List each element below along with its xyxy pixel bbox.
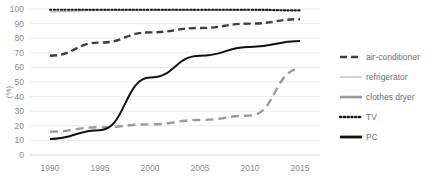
- y-axis-title: (%): [4, 85, 13, 98]
- x-tick-label: 2005: [191, 163, 210, 173]
- y-tick-label: 100: [10, 4, 24, 14]
- y-tick-label: 10: [15, 135, 25, 145]
- y-tick-label: 0: [19, 150, 24, 160]
- y-axis-title-text: (%): [4, 85, 13, 98]
- x-tick-label: 2010: [241, 163, 260, 173]
- legend-label-clothes-dryer: clothes dryer: [366, 92, 415, 102]
- y-tick-label: 50: [15, 77, 25, 87]
- legend-label-PC: PC: [366, 132, 378, 142]
- x-tick-label: 1995: [91, 163, 110, 173]
- y-tick-label: 90: [15, 19, 25, 29]
- y-tick-label: 70: [15, 48, 25, 58]
- y-tick-label: 20: [15, 121, 25, 131]
- y-tick-label: 60: [15, 62, 25, 72]
- x-tick-label: 2000: [141, 163, 160, 173]
- legend-label-air-conditioner: air-conditioner: [366, 52, 420, 62]
- chart-container: 0102030405060708090100 19901995200020052…: [0, 0, 429, 183]
- y-tick-label: 80: [15, 33, 25, 43]
- y-tick-label: 40: [15, 92, 25, 102]
- y-tick-label: 30: [15, 106, 25, 116]
- x-tick-label: 2015: [291, 163, 310, 173]
- line-chart: 0102030405060708090100 19901995200020052…: [0, 0, 429, 183]
- x-tick-label: 1990: [41, 163, 60, 173]
- legend-label-TV: TV: [366, 112, 377, 122]
- legend-label-refrigerator: refrigerator: [366, 72, 408, 82]
